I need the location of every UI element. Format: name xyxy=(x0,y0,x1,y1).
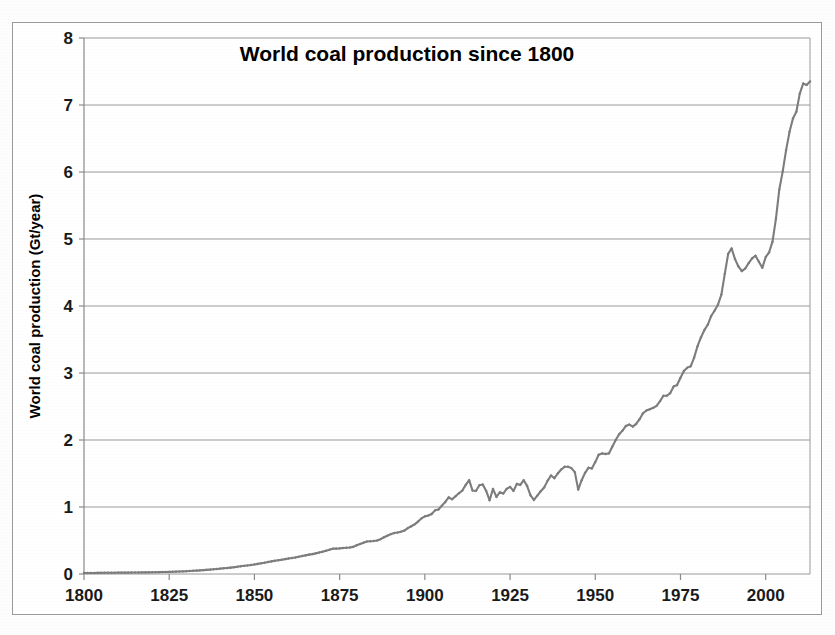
coal-production-line-chart: 0123456781800182518501875190019251950197… xyxy=(0,0,835,635)
x-tick-label-1950: 1950 xyxy=(576,586,614,605)
y-tick-label-6: 6 xyxy=(64,163,73,182)
x-tick-label-1875: 1875 xyxy=(321,586,359,605)
x-tick-label-1900: 1900 xyxy=(406,586,444,605)
x-tick-label-1825: 1825 xyxy=(150,586,188,605)
series-line xyxy=(84,82,810,573)
x-tick-label-1925: 1925 xyxy=(491,586,529,605)
y-tick-label-5: 5 xyxy=(64,230,73,249)
x-tick-label-1800: 1800 xyxy=(65,586,103,605)
x-tick-label-1850: 1850 xyxy=(236,586,274,605)
x-tick-label-1975: 1975 xyxy=(662,586,700,605)
gridlines xyxy=(84,38,810,574)
y-tick-label-8: 8 xyxy=(64,29,73,48)
y-tick-label-7: 7 xyxy=(64,96,73,115)
x-tick-label-2000: 2000 xyxy=(747,586,785,605)
y-tick-label-1: 1 xyxy=(64,498,73,517)
figure-container: 0123456781800182518501875190019251950197… xyxy=(0,0,835,635)
data-series-0 xyxy=(83,80,812,574)
x-axis-ticks: 180018251850187519001925195019752000 xyxy=(65,574,785,605)
y-tick-label-4: 4 xyxy=(64,297,74,316)
y-tick-label-3: 3 xyxy=(64,364,73,383)
y-axis-title: World coal production (Gt/year) xyxy=(26,194,43,419)
chart-title: World coal production since 1800 xyxy=(240,42,575,65)
y-axis-ticks: 012345678 xyxy=(64,29,84,584)
y-tick-label-0: 0 xyxy=(64,565,73,584)
y-tick-label-2: 2 xyxy=(64,431,73,450)
